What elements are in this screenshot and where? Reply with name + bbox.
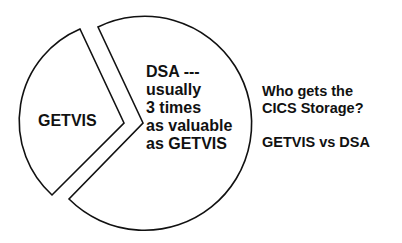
caption-question-line: CICS Storage? bbox=[262, 100, 370, 117]
dsa-label-line: as GETVIS bbox=[146, 135, 232, 153]
getvis-slice-label: GETVIS bbox=[38, 112, 97, 130]
dsa-label-line: DSA --- bbox=[146, 63, 232, 81]
dsa-label-line: as valuable bbox=[146, 117, 232, 135]
dsa-label-line: usually bbox=[146, 81, 232, 99]
dsa-label-line: 3 times bbox=[146, 99, 232, 117]
dsa-slice-label: DSA --- usually 3 times as valuable as G… bbox=[146, 63, 232, 153]
caption-subtitle: GETVIS vs DSA bbox=[262, 134, 370, 151]
caption-question-line: Who gets the bbox=[262, 83, 370, 100]
caption: Who gets the CICS Storage? GETVIS vs DSA bbox=[262, 83, 370, 151]
